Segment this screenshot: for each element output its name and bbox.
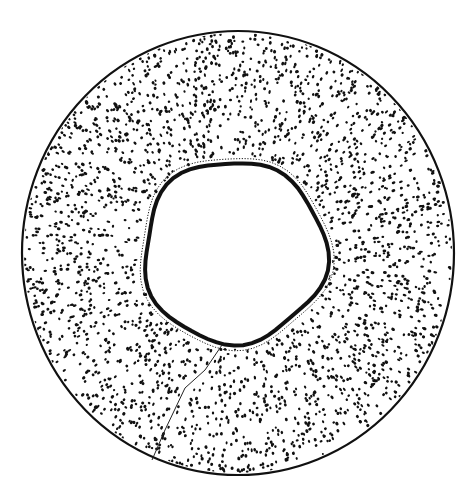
crack-line bbox=[152, 345, 222, 460]
inner-hole-boundary bbox=[145, 163, 329, 345]
stippled-ring-figure bbox=[0, 0, 476, 495]
